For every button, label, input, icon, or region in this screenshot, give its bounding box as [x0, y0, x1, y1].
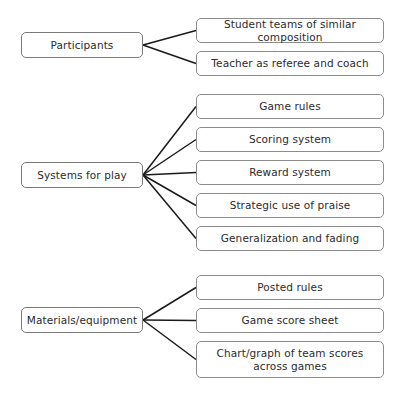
connector-materials-equipment-0 — [143, 288, 196, 321]
node-label: Scoring system — [249, 133, 331, 146]
node-systems-for-play-child-0[interactable]: Game rules — [196, 94, 384, 119]
node-participants[interactable]: Participants — [21, 32, 143, 58]
node-label: Student teams of similar composition — [200, 18, 380, 43]
node-label: Participants — [51, 39, 114, 52]
node-participants-child-0[interactable]: Student teams of similar composition — [196, 18, 384, 43]
node-materials-equipment-child-2[interactable]: Chart/graph of team scores across games — [196, 341, 384, 378]
node-label: Game score sheet — [242, 314, 339, 327]
connector-systems-for-play-1 — [143, 140, 196, 176]
node-systems-for-play-child-1[interactable]: Scoring system — [196, 127, 384, 152]
node-materials-equipment-child-0[interactable]: Posted rules — [196, 275, 384, 300]
connector-systems-for-play-0 — [143, 107, 196, 176]
connector-systems-for-play-4 — [143, 175, 196, 239]
node-systems-for-play-child-4[interactable]: Generalization and fading — [196, 226, 384, 251]
connector-materials-equipment-2 — [143, 320, 196, 360]
node-materials-equipment-child-1[interactable]: Game score sheet — [196, 308, 384, 333]
connector-systems-for-play-3 — [143, 175, 196, 206]
node-label: Generalization and fading — [221, 232, 359, 245]
node-systems-for-play-child-2[interactable]: Reward system — [196, 160, 384, 185]
node-label: Game rules — [259, 100, 320, 113]
connector-participants-0 — [143, 31, 196, 46]
connector-systems-for-play-2 — [143, 173, 196, 176]
node-label: Posted rules — [257, 281, 322, 294]
node-systems-for-play[interactable]: Systems for play — [21, 162, 143, 188]
diagram-canvas: ParticipantsStudent teams of similar com… — [0, 0, 406, 399]
node-label: Materials/equipment — [27, 314, 137, 327]
connector-participants-1 — [143, 45, 196, 64]
connector-materials-equipment-1 — [143, 320, 196, 321]
node-label: Systems for play — [37, 169, 127, 182]
node-label: Strategic use of praise — [230, 199, 351, 212]
node-label: Teacher as referee and coach — [211, 57, 368, 70]
node-participants-child-1[interactable]: Teacher as referee and coach — [196, 51, 384, 76]
node-label: Reward system — [249, 166, 331, 179]
node-label: Chart/graph of team scores across games — [200, 347, 380, 372]
node-systems-for-play-child-3[interactable]: Strategic use of praise — [196, 193, 384, 218]
node-materials-equipment[interactable]: Materials/equipment — [21, 307, 143, 333]
